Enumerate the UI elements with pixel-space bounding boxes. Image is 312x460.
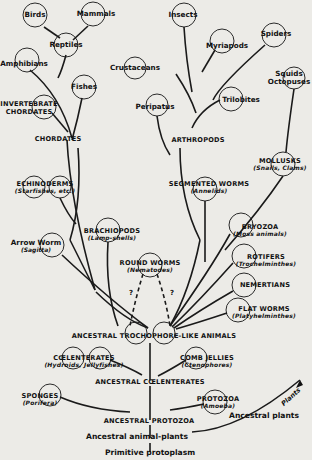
label-echinoderms: ECHINODERMS (Starfishes, etc.) (15, 180, 76, 195)
label-chordates: CHORDATES (35, 135, 82, 143)
label-peripatus: Peripatus (136, 103, 175, 111)
label-myriapods: Myriapods (206, 42, 248, 50)
label-arrow-worm: Arrow Worm (Sagitta) (11, 239, 61, 254)
evolutionary-tree-diagram: Birds Mammals Reptiles Amphibians Fishes… (0, 0, 312, 460)
label-ancestral-protozoa: ANCESTRAL PROTOZOA (104, 417, 194, 425)
label-amphibians: Amphibians (0, 60, 48, 68)
label-birds: Birds (25, 11, 46, 19)
label-crustaceans: Crustaceans (110, 64, 160, 72)
label-segmented-worms: SEGMENTED WORMS (Annelids) (169, 180, 249, 195)
label-round-worms: ROUND WORMS (Nematodes) (120, 259, 181, 274)
label-ancestral-trochophore: ANCESTRAL TROCHOPHORE-LIKE ANIMALS (72, 332, 236, 340)
label-ancestral-animal-plants: Ancestral animal-plants (86, 433, 188, 441)
label-brachiopods: BRACHIOPODS (Lamp-shells) (84, 227, 140, 242)
label-spiders: Spiders (261, 30, 292, 38)
label-mammals: Mammals (77, 10, 116, 18)
label-flat-worms: FLAT WORMS (Platyhelminthes) (232, 305, 296, 320)
label-ancestral-coelenterates: ANCESTRAL CŒLENTERATES (95, 378, 204, 386)
label-squids-octopuses: Squids Octopuses (268, 70, 310, 86)
label-coelenterates: CŒLENTERATES (Hydroids, Jellyfishes) (44, 354, 123, 369)
label-bryozoa: BRYOZOA (Moss animals) (233, 223, 287, 238)
label-reptiles: Reptiles (49, 41, 82, 49)
label-ancestral-plants: Ancestral plants (229, 412, 299, 420)
label-insects: Insects (169, 11, 198, 19)
node-circles (15, 2, 305, 414)
uncertain-mark-left: ? (129, 289, 133, 297)
label-mollusks: MOLLUSKS (Snails, Clams) (253, 157, 307, 172)
label-trilobites: Trilobites (222, 96, 260, 104)
label-rotifers: ROTIFERS (Trochelminthes) (236, 253, 297, 268)
label-invertebrate-chordates: INVERTEBRATE CHORDATES (0, 100, 57, 116)
label-arthropods: ARTHROPODS (171, 136, 224, 144)
label-comb-jellies: COMB JELLIES (Ctenophores) (180, 354, 234, 369)
uncertain-mark-right: ? (170, 289, 174, 297)
label-fishes: Fishes (71, 83, 97, 91)
label-primitive-protoplasm: Primitive protoplasm (105, 449, 195, 457)
label-nemertians: NEMERTIANS (240, 281, 290, 289)
label-protozoa: PROTOZOA (Amoeba) (197, 395, 240, 410)
label-sponges: SPONGES (Porifera) (22, 392, 59, 407)
